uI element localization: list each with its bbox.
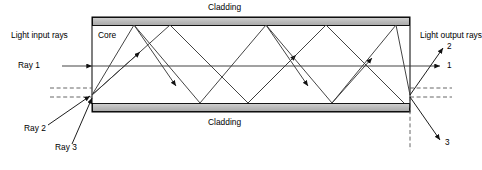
output-ray-3-label: 3 [445,139,450,147]
cladding-top-label: Cladding [208,3,241,11]
output-arrows [410,48,443,140]
ray-3-input-label: Ray 3 [55,143,77,151]
ray-2-input-arrow [48,96,90,125]
ray-3-input-arrow [72,98,92,144]
input-leader-arrows [48,96,92,144]
cladding-bottom-label: Cladding [208,118,241,126]
cladding-band-top [93,18,410,26]
light-output-rays-label: Light output rays [420,31,482,39]
entry-reference-lines [50,88,92,97]
ray-3-output-arrow [410,97,440,140]
light-input-rays-label: Light input rays [11,31,68,39]
ray-1-input-label: Ray 1 [18,61,40,69]
cladding-band-bottom [93,104,410,112]
ray-2-input-label: Ray 2 [24,124,46,132]
core-label: Core [98,31,116,39]
output-ray-2-label: 2 [447,43,452,51]
fiber-ray-diagram: Cladding Cladding Core Light input rays … [0,0,482,170]
output-ray-1-label: 1 [447,62,452,70]
